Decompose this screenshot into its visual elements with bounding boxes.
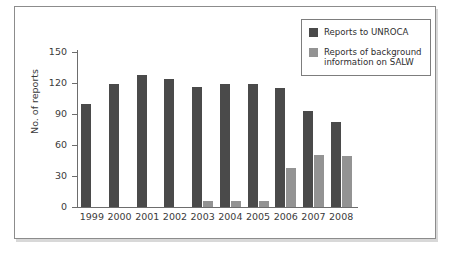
bar-1999-series0 [81,104,91,207]
bar-2000-series0 [109,84,119,207]
bar-2003-series0 [192,87,202,207]
bar-2005-series0 [248,84,258,207]
bar-2006-series0 [275,88,285,207]
bar-2008-series1 [342,156,352,207]
y-tick-mark [72,176,77,177]
y-tick-label: 150 [27,47,67,57]
legend-label-0: Reports to UNROCA [324,27,408,38]
y-tick-label: 120 [27,78,67,88]
bar-2006-series1 [286,168,296,207]
y-tick-label: 30 [27,171,67,181]
x-axis-line [77,207,358,208]
bar-2004-series0 [220,84,230,207]
y-tick-label: 0 [27,202,67,212]
bar-2008-series0 [331,122,341,207]
y-tick-mark [72,83,77,84]
chart-figure: No. of reports 0306090120150 19992000200… [0,0,455,254]
legend-swatch-gray-icon [309,48,318,57]
y-tick-mark [72,114,77,115]
y-tick-label: 60 [27,140,67,150]
bar-2002-series0 [164,79,174,207]
y-tick-mark [72,145,77,146]
legend-item-reports-to-unroca: Reports to UNROCA [309,27,424,38]
legend-label-1: Reports of background information on SAL… [324,47,424,68]
legend-swatch-dark-icon [309,28,318,37]
bar-2007-series0 [303,111,313,207]
chart-legend: Reports to UNROCA Reports of background … [301,19,431,76]
x-tick-label-2008: 2008 [325,211,357,222]
y-axis-title: No. of reports [29,62,40,142]
bar-2007-series1 [314,155,324,207]
y-axis-line [77,50,78,208]
bar-2001-series0 [137,75,147,207]
legend-item-reports-background-salw: Reports of background information on SAL… [309,47,424,68]
y-tick-mark [72,207,77,208]
y-tick-label: 90 [27,109,67,119]
y-tick-mark [72,52,77,53]
